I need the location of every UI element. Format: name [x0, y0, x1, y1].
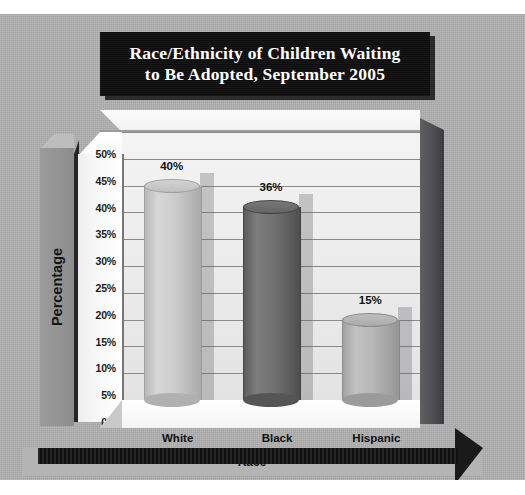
bar-cylinder	[144, 179, 200, 400]
bar-cylinder	[243, 200, 299, 400]
y-axis-title: Percentage	[49, 248, 65, 326]
x-axis-category-label: White	[162, 432, 193, 444]
bar-cylinder-body	[144, 186, 202, 400]
base-bevel	[455, 428, 483, 484]
chart-title-line-2: to Be Adopted, September 2005	[145, 64, 385, 84]
y-axis-tick-label: 5%	[101, 389, 116, 401]
y-axis-tick-label: 15%	[96, 336, 116, 348]
y-axis-title-wrapper: Percentage	[40, 148, 74, 426]
bar-cylinder-bottom	[243, 393, 299, 407]
y-axis-tick-label: 40%	[96, 202, 116, 214]
y-axis-tick-panel: 50%45%40%35%30%25%20%15%10%5%0%	[78, 154, 124, 422]
chart-title: Race/Ethnicity of Children Waiting to Be…	[119, 43, 410, 85]
bottom-margin	[0, 480, 525, 495]
y-axis-tick-label: 35%	[96, 228, 116, 240]
y-axis-tick-label: 45%	[96, 175, 116, 187]
bar-data-label: 15%	[359, 294, 382, 306]
bar-data-label: 40%	[160, 160, 183, 172]
y-axis-tick-label: 10%	[96, 362, 116, 374]
plot-ceiling-slab	[100, 110, 420, 132]
bar-cylinder-body	[342, 320, 400, 400]
chart-screenshot: Race/Ethnicity of Children Waiting to Be…	[0, 0, 525, 495]
x-axis-category-label: Black	[262, 432, 293, 444]
y-axis-tick-label: 30%	[96, 255, 116, 267]
bar-depth-shadow	[200, 173, 214, 400]
chart-3d-plot: 50%45%40%35%30%25%20%15%10%5%0% Percenta…	[22, 110, 502, 455]
bar-cylinder	[342, 313, 398, 400]
y-axis-tick-label: 20%	[96, 309, 116, 321]
bar-cylinder-top	[243, 200, 299, 214]
y-axis-tick-label: 25%	[96, 282, 116, 294]
bar-cylinder-top	[342, 313, 398, 327]
x-axis-category-label: Hispanic	[352, 432, 400, 444]
gridline	[122, 132, 420, 133]
top-margin	[0, 0, 525, 14]
base-bar	[38, 448, 458, 464]
y-axis-tick-label: 50%	[96, 148, 116, 160]
title-plaque: Race/Ethnicity of Children Waiting to Be…	[100, 32, 430, 96]
bar-cylinder-body	[243, 207, 301, 400]
plot-right-side-wall	[420, 118, 444, 424]
chart-title-line-1: Race/Ethnicity of Children Waiting	[129, 43, 400, 63]
bar-cylinder-bottom	[144, 393, 200, 407]
y-axis-label-band-top	[40, 134, 74, 149]
bar-data-label: 36%	[259, 181, 282, 193]
bar-depth-shadow	[299, 194, 313, 400]
bar-cylinder-top	[144, 179, 200, 193]
bar-depth-shadow	[398, 307, 412, 400]
bar-cylinder-bottom	[342, 393, 398, 407]
